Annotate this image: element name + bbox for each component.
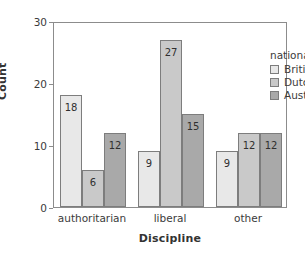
y-axis-tick-label: 20 [34,78,47,90]
y-axis-tick-label: 10 [34,140,47,152]
y-axis-tick-label: 30 [34,16,47,28]
legend-items: BritishDutchAustralian [270,64,305,101]
legend-item-label: Australian [284,90,305,101]
y-axis-tick-mark [49,208,53,209]
bar-authoritarian-australian: 12 [104,133,126,207]
bar-value-label: 9 [217,158,237,169]
legend-swatch-icon [270,78,279,87]
bar-liberal-british: 9 [138,151,160,207]
bar-authoritarian-british: 18 [60,95,82,207]
legend-item-australian: Australian [270,90,305,101]
bar-liberal-australian: 15 [182,114,204,207]
bar-value-label: 12 [239,140,259,151]
x-axis-tick-label: liberal [154,212,187,224]
legend-item-label: Dutch [284,77,305,88]
bar-value-label: 9 [139,158,159,169]
legend-item-label: British [284,64,305,75]
bar-value-label: 12 [261,140,281,151]
legend-item-dutch: Dutch [270,77,305,88]
bar-liberal-dutch: 27 [160,40,182,207]
bar-value-label: 27 [161,47,181,58]
x-axis-title: Discipline [139,232,201,245]
bar-other-dutch: 12 [238,133,260,207]
bar-value-label: 12 [105,140,125,151]
legend-swatch-icon [270,65,279,74]
y-axis-title: Count [0,62,9,100]
legend-swatch-icon [270,91,279,100]
bar-value-label: 6 [83,177,103,188]
x-axis-tick-label: other [234,212,262,224]
bar-value-label: 18 [61,102,81,113]
legend-title: nationality [270,49,305,61]
bar-other-british: 9 [216,151,238,207]
bar-value-label: 15 [183,121,203,132]
bar-authoritarian-dutch: 6 [82,170,104,207]
y-axis-tick-label: 0 [40,202,47,214]
bar-chart: Count 0102030 186129271591212 nationalit… [0,0,305,261]
legend-item-british: British [270,64,305,75]
plot-area: 186129271591212 nationality BritishDutch… [53,22,287,208]
legend: nationality BritishDutchAustralian [270,49,305,103]
x-axis-tick-label: authoritarian [58,212,126,224]
bar-other-australian: 12 [260,133,282,207]
